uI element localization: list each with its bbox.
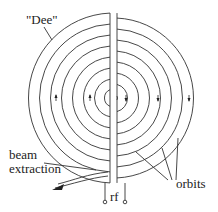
extraction-label: extraction bbox=[9, 161, 61, 176]
dee-leader bbox=[44, 27, 52, 40]
right-dee bbox=[117, 13, 194, 183]
left-dee bbox=[28, 13, 110, 183]
orbit-arc-left bbox=[83, 68, 110, 128]
beam-arrowhead-icon bbox=[52, 184, 64, 190]
orbit-arc-left bbox=[50, 35, 110, 161]
orbits-leader-3 bbox=[176, 138, 178, 180]
orbit-arrows bbox=[55, 94, 191, 102]
orbit-arc-right bbox=[117, 62, 149, 134]
orbit-arc-left bbox=[62, 46, 111, 150]
beam-label: beam bbox=[9, 147, 37, 162]
orbits-leader-1 bbox=[136, 152, 168, 180]
orbits-label: orbits bbox=[176, 176, 206, 191]
orbits-leader-2 bbox=[162, 148, 172, 180]
cyclotron-diagram: "Dee" beam extraction orbits rf bbox=[0, 0, 218, 212]
rf-terminal-left bbox=[103, 200, 107, 204]
dee-label: "Dee" bbox=[26, 12, 58, 27]
rf-terminal-right bbox=[123, 200, 127, 204]
orbit-arc-left bbox=[94, 79, 110, 116]
rf-label: rf bbox=[110, 189, 119, 204]
orbit-arc-left bbox=[104, 90, 110, 107]
